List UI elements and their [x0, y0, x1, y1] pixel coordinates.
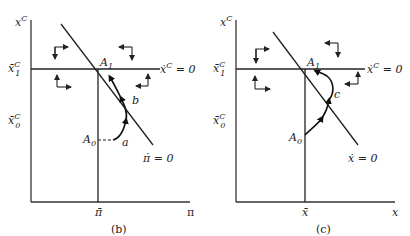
x-tick-label: π̄ — [94, 206, 103, 219]
point-a-label: a — [122, 136, 129, 149]
x-axis-label: π — [187, 206, 194, 219]
y-axis-label: xC — [220, 14, 232, 29]
point-A1-label: A1 — [306, 56, 320, 71]
point-A0-label: A0 — [82, 133, 96, 148]
x-axis-label: x — [392, 206, 399, 219]
panel-b: xC x̄C1 x̄C0 ẋC = 0 π̇ = 0 A1 A0 a b π̄ … — [8, 14, 196, 236]
panel-caption: (b) — [111, 223, 127, 236]
panel-c: xC x̄C1 x̄C0 ẋC = 0 ẋ = 0 A1 A0 c x̄ x (… — [213, 14, 403, 236]
horizontal-locus-label: ẋC = 0 — [160, 61, 196, 76]
diagonal-locus-label: ẋ = 0 — [348, 152, 377, 165]
diagonal-locus-label: π̇ = 0 — [142, 152, 173, 165]
y-tick-lower: x̄C0 — [213, 112, 225, 130]
trajectory-segment — [305, 118, 322, 135]
point-A0-label: A0 — [288, 131, 302, 146]
point-b-label: b — [132, 94, 139, 107]
x-tick-label: x̄ — [302, 206, 309, 219]
horizontal-locus-label: ẋC = 0 — [367, 61, 403, 76]
y-axis-label: xC — [15, 14, 27, 29]
trajectory-segment — [121, 98, 127, 120]
panel-caption: (c) — [316, 223, 331, 236]
y-tick-upper: x̄C1 — [8, 60, 20, 78]
diagonal-locus-line — [61, 24, 153, 145]
arrow-right-icon — [256, 49, 269, 62]
point-c-label: c — [334, 88, 340, 101]
diagonal-locus-line — [273, 32, 358, 145]
point-A1-label: A1 — [99, 56, 113, 71]
trajectory-segment — [316, 71, 333, 100]
phase-diagram-figure: xC x̄C1 x̄C0 ẋC = 0 π̇ = 0 A1 A0 a b π̄ … — [0, 0, 410, 236]
arrow-right-icon — [55, 47, 68, 58]
y-tick-lower: x̄C0 — [8, 112, 20, 130]
y-tick-upper: x̄C1 — [213, 60, 225, 78]
